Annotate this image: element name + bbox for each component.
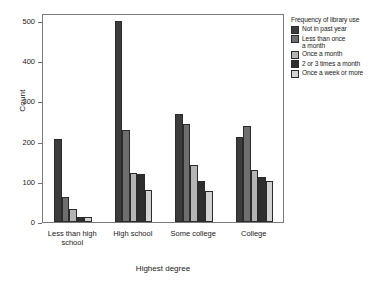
legend-swatch-icon — [291, 70, 299, 78]
legend: Frequency of library use Not in past yea… — [291, 16, 381, 79]
bar — [145, 190, 153, 222]
bar — [236, 137, 244, 222]
legend-title: Frequency of library use — [291, 16, 381, 23]
legend-swatch-icon — [291, 60, 299, 68]
y-axis-tick: 200 — [0, 143, 42, 144]
bar — [205, 191, 213, 222]
bar — [69, 209, 77, 222]
bar-group — [54, 15, 92, 222]
bar — [243, 126, 251, 222]
y-axis-tick: 100 — [0, 183, 42, 184]
bar — [175, 114, 183, 222]
legend-item-label: Not in past year — [302, 25, 347, 32]
y-axis-tick: 0 — [0, 223, 42, 224]
legend-item-label: Once a week or more — [302, 69, 363, 76]
bar — [130, 173, 138, 222]
bar — [251, 170, 259, 222]
bar — [115, 21, 123, 222]
legend-item-label: 2 or 3 times a month — [302, 60, 360, 67]
y-axis-tick-mark — [38, 223, 42, 224]
legend-item: 2 or 3 times a month — [291, 60, 381, 69]
bar — [190, 165, 198, 222]
legend-items: Not in past yearLess than once a monthOn… — [291, 25, 381, 78]
y-axis-tick: 500 — [0, 22, 42, 23]
bar-group — [236, 15, 274, 222]
legend-item: Once a month — [291, 50, 381, 59]
legend-item-label: Once a month — [302, 50, 342, 57]
bar — [62, 197, 70, 222]
bar — [54, 139, 62, 222]
bar — [84, 217, 92, 222]
y-axis-tick-label: 400 — [22, 57, 35, 66]
bar-group — [115, 15, 153, 222]
bar — [122, 130, 130, 222]
legend-item: Less than once a month — [291, 35, 381, 50]
legend-swatch-icon — [291, 26, 299, 34]
legend-swatch-icon — [291, 35, 299, 43]
y-axis-tick-label: 500 — [22, 17, 35, 26]
bar — [198, 181, 206, 222]
legend-item: Not in past year — [291, 25, 381, 34]
x-axis-tick-label: College — [214, 229, 294, 238]
bar — [266, 181, 274, 222]
bar — [77, 217, 85, 222]
y-axis-tick: 300 — [0, 102, 42, 103]
plot-area — [42, 14, 284, 223]
bar — [258, 177, 266, 222]
bar-group — [175, 15, 213, 222]
y-axis-tick-label: 300 — [22, 97, 35, 106]
bar — [137, 174, 145, 222]
bar — [183, 124, 191, 222]
x-axis-title: Highest degree — [42, 264, 284, 273]
legend-swatch-icon — [291, 51, 299, 59]
bar-chart-figure: Count 5004003002001000 Less than high sc… — [0, 0, 381, 288]
y-axis-tick-label: 100 — [22, 178, 35, 187]
legend-item: Once a week or more — [291, 69, 381, 78]
legend-item-label: Less than once a month — [302, 35, 348, 50]
y-axis-tick-label: 200 — [22, 138, 35, 147]
y-axis-tick: 400 — [0, 62, 42, 63]
y-axis-tick-label: 0 — [31, 218, 35, 227]
